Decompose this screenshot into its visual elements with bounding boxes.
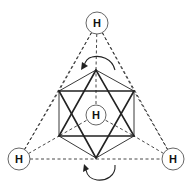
atom-top-h: H	[86, 12, 108, 34]
dashed-bond-left-h-to-tl-vertex	[19, 91, 59, 159]
dashed-bond-right-h-to-tr-vertex	[134, 91, 173, 159]
atom-center-h: H	[86, 105, 106, 125]
atom-label: H	[93, 17, 101, 29]
hexagram-hydrogen-diagram: H H H H	[0, 0, 195, 189]
atom-label: H	[92, 109, 100, 121]
upward-triangle	[59, 70, 134, 136]
bottom-arrow-arc	[86, 165, 115, 180]
rotation-arrow-bottom	[83, 164, 115, 180]
atom-bottom-right-h: H	[162, 148, 184, 170]
atom-bottom-left-h: H	[8, 148, 30, 170]
top-arrow-arc	[84, 56, 115, 70]
atom-label: H	[15, 153, 23, 165]
rotation-arrow-top	[81, 56, 115, 70]
atom-label: H	[169, 153, 177, 165]
